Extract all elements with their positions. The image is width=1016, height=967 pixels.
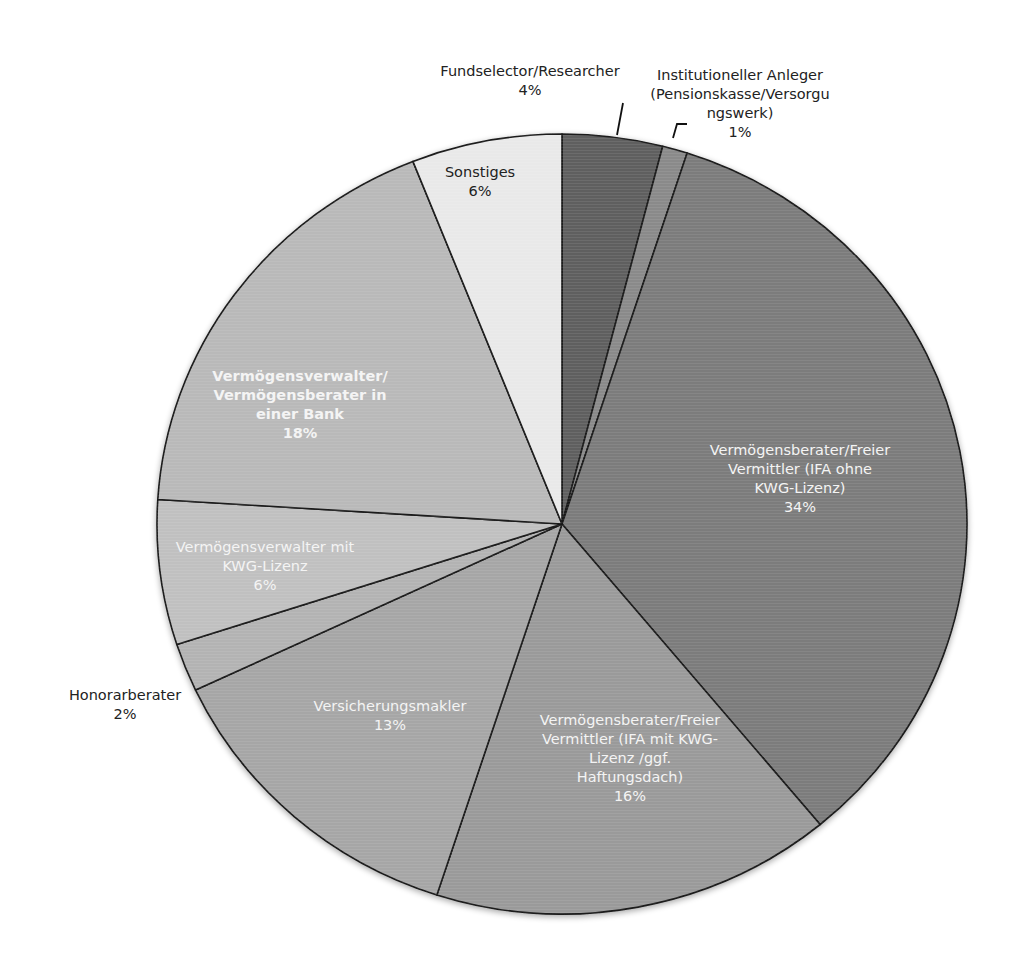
label-kwg-line1: Vermögensverwalter mit bbox=[150, 538, 380, 557]
label-ifa-ohne-line3: KWG-Lizenz) bbox=[660, 479, 940, 498]
label-ifa-ohne: Vermögensberater/Freier Vermittler (IFA … bbox=[660, 441, 940, 517]
label-fundselector-pct: 4% bbox=[440, 81, 620, 100]
label-kwg: Vermögensverwalter mit KWG-Lizenz 6% bbox=[150, 538, 380, 595]
label-bank-line3: einer Bank bbox=[180, 405, 420, 424]
label-sonstiges-name: Sonstiges bbox=[420, 163, 540, 182]
label-ifa-ohne-pct: 34% bbox=[660, 498, 940, 517]
label-sonstiges: Sonstiges 6% bbox=[420, 163, 540, 201]
label-ifa-mit-line3: Lizenz /ggf. bbox=[500, 749, 760, 768]
label-honorarberater-name: Honorarberater bbox=[30, 686, 220, 705]
label-institutioneller-line3: ngswerk) bbox=[630, 104, 850, 123]
label-honorarberater: Honorarberater 2% bbox=[30, 686, 220, 724]
label-fundselector-name: Fundselector/Researcher bbox=[440, 62, 620, 81]
label-versicherungsmakler-name: Versicherungsmakler bbox=[280, 697, 500, 716]
label-bank-pct: 18% bbox=[180, 424, 420, 443]
leader-line-fundselector bbox=[617, 103, 623, 135]
label-versicherungsmakler-pct: 13% bbox=[280, 716, 500, 735]
label-honorarberater-pct: 2% bbox=[30, 705, 220, 724]
label-ifa-mit-line4: Haftungsdach) bbox=[500, 768, 760, 787]
label-ifa-mit: Vermögensberater/Freier Vermittler (IFA … bbox=[500, 711, 760, 806]
label-kwg-pct: 6% bbox=[150, 576, 380, 595]
label-ifa-mit-line1: Vermögensberater/Freier bbox=[500, 711, 760, 730]
label-ifa-mit-pct: 16% bbox=[500, 787, 760, 806]
label-institutioneller-pct: 1% bbox=[630, 123, 850, 142]
label-bank: Vermögensverwalter/ Vermögensberater in … bbox=[180, 367, 420, 443]
label-institutioneller-line2: (Pensionskasse/Versorgu bbox=[630, 85, 850, 104]
label-ifa-mit-line2: Vermittler (IFA mit KWG- bbox=[500, 730, 760, 749]
label-fundselector: Fundselector/Researcher 4% bbox=[440, 62, 620, 100]
label-bank-line1: Vermögensverwalter/ bbox=[180, 367, 420, 386]
label-versicherungsmakler: Versicherungsmakler 13% bbox=[280, 697, 500, 735]
label-institutioneller-line1: Institutioneller Anleger bbox=[630, 66, 850, 85]
label-ifa-ohne-line1: Vermögensberater/Freier bbox=[660, 441, 940, 460]
label-bank-line2: Vermögensberater in bbox=[180, 386, 420, 405]
label-kwg-line2: KWG-Lizenz bbox=[150, 557, 380, 576]
label-institutioneller: Institutioneller Anleger (Pensionskasse/… bbox=[630, 66, 850, 142]
label-ifa-ohne-line2: Vermittler (IFA ohne bbox=[660, 460, 940, 479]
label-sonstiges-pct: 6% bbox=[420, 182, 540, 201]
